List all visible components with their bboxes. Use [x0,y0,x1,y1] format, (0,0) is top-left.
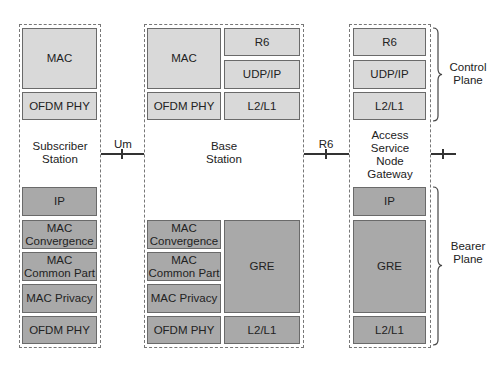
um-interface-label: Um [108,138,138,151]
asn-r6-layer: R6 [353,28,426,56]
ss-ofdm-phy-bearer-layer: OFDM PHY [22,316,97,344]
asn-outgoing-tick [442,149,444,159]
bs-r6-layer: R6 [224,28,300,56]
r6-interface-tick [325,149,327,159]
bs-mac-common-part-layer: MAC Common Part [147,252,221,281]
asn-gateway-label: Access Service Node Gateway [350,129,430,181]
bs-mac-privacy-layer: MAC Privacy [147,284,221,313]
bs-gre-layer: GRE [224,220,300,313]
bs-l2-l1-bearer-layer: L2/L1 [224,316,300,344]
bs-ofdm-phy-bearer-layer: OFDM PHY [147,316,221,344]
bs-mac-layer: MAC [147,28,221,89]
bs-ofdm-phy-layer: OFDM PHY [147,92,221,120]
ss-mac-privacy-layer: MAC Privacy [22,284,97,313]
asn-l2-l1-bearer-layer: L2/L1 [353,316,426,344]
base-station-label: Base Station [184,140,264,166]
subscriber-station-label: Subscriber Station [20,140,100,166]
bs-udp-ip-layer: UDP/IP [224,60,300,89]
ss-mac-common-part-layer: MAC Common Part [22,252,97,281]
bs-mac-convergence-layer: MAC Convergence [147,220,221,249]
um-interface-tick [121,149,123,159]
asn-udp-ip-layer: UDP/IP [353,60,426,89]
bearer-plane-label: Bearer Plane [443,240,493,266]
bs-l2-l1-layer: L2/L1 [224,92,300,120]
asn-ip-layer: IP [353,187,426,216]
asn-gre-layer: GRE [353,220,426,313]
ss-mac-convergence-layer: MAC Convergence [22,220,97,249]
ss-mac-layer: MAC [22,28,97,89]
control-plane-label: Control Plane [443,61,493,87]
ss-ofdm-phy-layer: OFDM PHY [22,92,97,120]
bearer-plane-brace-icon [432,186,444,346]
asn-l2-l1-layer: L2/L1 [353,92,426,120]
ss-ip-layer: IP [22,187,97,216]
